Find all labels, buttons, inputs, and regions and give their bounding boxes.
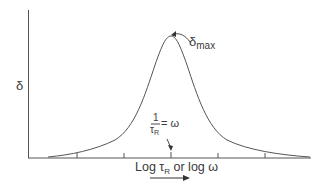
max-subscript: max bbox=[196, 40, 215, 51]
y-axis-label: δ bbox=[16, 78, 23, 93]
x-label-sub: R bbox=[164, 167, 170, 176]
r-subscript: R bbox=[154, 129, 159, 136]
x-ticks bbox=[77, 152, 265, 158]
equals-omega: = ω bbox=[161, 117, 179, 129]
delta-max-label: δmax bbox=[189, 34, 215, 49]
fraction-denominator: τR bbox=[150, 124, 159, 135]
loss-curve bbox=[48, 36, 310, 157]
x-label-pre: Log τ bbox=[135, 160, 164, 174]
x-label-post: or log ω bbox=[170, 160, 218, 174]
arrowhead-icon bbox=[168, 145, 173, 151]
x-axis-label: Log τR or log ω bbox=[135, 160, 218, 174]
arrowhead-icon bbox=[183, 175, 190, 181]
fraction-numerator: 1 bbox=[153, 112, 159, 123]
